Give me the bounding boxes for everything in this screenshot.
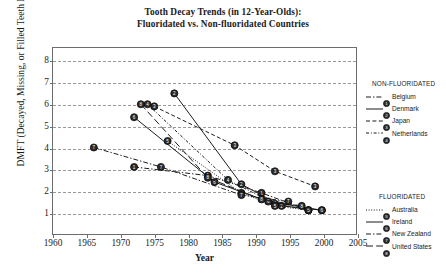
legend-item-ireland[interactable]: 6Ireland: [366, 216, 412, 227]
legend-item-label: United States: [392, 243, 432, 250]
legend-item-label: Japan: [392, 117, 410, 124]
legend-group-title: FLUORIDATED: [379, 193, 425, 200]
legend-item-label: Ireland: [392, 218, 412, 225]
legend-item-new-zealand[interactable]: 7New Zealand: [366, 228, 431, 239]
legend-marker: 3: [383, 117, 390, 124]
legend-item-denmark[interactable]: 2Denmark: [366, 103, 419, 114]
legend-marker: 8: [383, 243, 390, 250]
legend-item-netherlands[interactable]: 4Netherlands: [366, 128, 428, 139]
legend-item-label: Netherlands: [392, 130, 428, 137]
legend-line-sample: [366, 105, 383, 113]
legend-item-japan[interactable]: 3Japan: [366, 115, 410, 126]
legend-line-sample: [366, 93, 383, 101]
legend-line-sample: [366, 206, 383, 214]
legend-line-sample: [366, 117, 383, 125]
legend-item-belgium[interactable]: 1Belgium: [366, 91, 416, 102]
legend-item-label: Denmark: [392, 105, 419, 112]
legend-marker: 7: [383, 230, 390, 237]
legend-item-label: Belgium: [392, 93, 416, 100]
legend-marker: 4: [383, 130, 390, 137]
legend-line-sample: [366, 129, 383, 137]
legend-item-label: Australia: [392, 206, 418, 213]
legend-line-sample: [366, 218, 383, 226]
legend-marker: 5: [383, 206, 390, 213]
legend-item-united-states[interactable]: 8United States: [366, 241, 432, 252]
legend-marker: 1: [383, 93, 390, 100]
chart-container: Tooth Decay Trends (in 12-Year-Olds): Fl…: [0, 0, 446, 276]
legend-item-label: New Zealand: [392, 230, 431, 237]
legend-group-title: NON-FLUORIDATED: [372, 80, 435, 87]
legend-line-sample: [366, 230, 383, 238]
legend-marker: 6: [383, 218, 390, 225]
legend-marker: 2: [383, 105, 390, 112]
legend-line-sample: [366, 242, 383, 250]
legend-item-australia[interactable]: 5Australia: [366, 204, 418, 215]
chart-legend: NON-FLUORIDATED1Belgium2Denmark3Japan4Ne…: [0, 0, 446, 276]
